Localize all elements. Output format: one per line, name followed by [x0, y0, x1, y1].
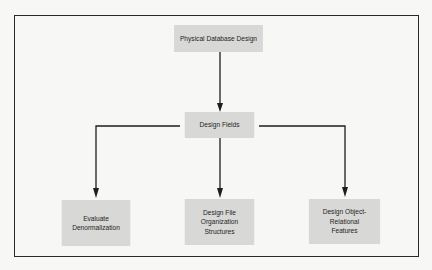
node-design-fields: Design Fields: [185, 112, 255, 138]
arrowhead-file: [217, 188, 223, 198]
node-evaluate-denormalization: Evaluate Denormalization: [62, 200, 131, 246]
node-label: Physical Database Design: [180, 34, 257, 44]
node-label: Design Object- Relational Features: [323, 207, 367, 236]
arrowhead-fields: [217, 103, 223, 112]
node-design-file-organization: Design File Organization Structures: [185, 199, 255, 245]
node-label: Evaluate Denormalization: [72, 214, 120, 233]
node-physical-database-design: Physical Database Design: [174, 25, 263, 52]
node-label: Design Fields: [200, 120, 240, 130]
branch-left: [96, 126, 180, 189]
arrowhead-denorm: [93, 188, 99, 198]
arrowhead-objrel: [342, 187, 348, 197]
branch-right: [259, 126, 345, 188]
diagram-canvas: Physical Database Design Design Fields E…: [0, 0, 432, 270]
node-design-object-relational: Design Object- Relational Features: [309, 199, 380, 244]
node-label: Design File Organization Structures: [201, 208, 238, 237]
